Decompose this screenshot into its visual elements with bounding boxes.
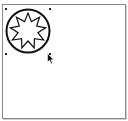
nine-point-star-icon[interactable] — [10, 13, 45, 48]
selection-handle-bottom-left[interactable] — [5, 53, 7, 55]
selected-shape[interactable] — [0, 0, 128, 121]
selection-handle-top-left[interactable] — [5, 8, 7, 10]
selection-handle-top-right[interactable] — [49, 8, 51, 10]
mouse-pointer-icon — [47, 53, 55, 65]
